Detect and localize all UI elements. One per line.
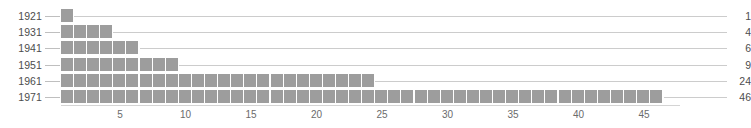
unit-square bbox=[572, 90, 584, 103]
unit-square bbox=[310, 90, 322, 103]
unit-square bbox=[100, 25, 112, 38]
unit-square bbox=[100, 90, 112, 103]
x-tick-label: 15 bbox=[245, 109, 256, 120]
unit-square bbox=[74, 58, 86, 71]
row-unit-squares bbox=[61, 58, 179, 72]
unit-square bbox=[388, 90, 400, 103]
unit-square bbox=[231, 74, 243, 87]
unit-square bbox=[153, 74, 165, 87]
unit-square bbox=[271, 74, 283, 87]
unit-square bbox=[349, 90, 361, 103]
row-value-label: 1 bbox=[730, 9, 751, 23]
unit-square bbox=[480, 90, 492, 103]
unit-square bbox=[284, 74, 296, 87]
unit-square bbox=[323, 90, 335, 103]
unit-square bbox=[244, 90, 256, 103]
row-value-label: 24 bbox=[730, 74, 751, 88]
unit-square bbox=[61, 74, 73, 87]
x-tick-label: 20 bbox=[311, 109, 322, 120]
unit-square bbox=[218, 90, 230, 103]
row-value-label: 9 bbox=[730, 58, 751, 72]
unit-square bbox=[362, 90, 374, 103]
unit-square bbox=[650, 90, 662, 103]
unit-square bbox=[61, 41, 73, 54]
x-axis-line bbox=[61, 105, 680, 106]
unit-square bbox=[166, 58, 178, 71]
unit-square bbox=[532, 90, 544, 103]
unit-square bbox=[349, 74, 361, 87]
unit-square bbox=[113, 90, 125, 103]
unit-square bbox=[179, 90, 191, 103]
unit-square bbox=[506, 90, 518, 103]
row-leader-line-right bbox=[74, 16, 727, 17]
row-unit-squares bbox=[61, 74, 375, 88]
unit-square bbox=[61, 90, 73, 103]
row-unit-squares bbox=[61, 41, 140, 55]
unit-square bbox=[244, 74, 256, 87]
row-year-label: 1921 bbox=[0, 9, 42, 23]
unit-square bbox=[87, 58, 99, 71]
chart-row: 19314 bbox=[0, 25, 751, 39]
unit-square bbox=[140, 90, 152, 103]
unit-square bbox=[126, 90, 138, 103]
row-value-label: 4 bbox=[730, 25, 751, 39]
unit-square bbox=[415, 90, 427, 103]
unit-square bbox=[74, 25, 86, 38]
unit-square bbox=[375, 90, 387, 103]
row-unit-squares bbox=[61, 90, 663, 104]
chart-row: 197146 bbox=[0, 90, 751, 104]
unit-square bbox=[362, 74, 374, 87]
row-year-label: 1961 bbox=[0, 74, 42, 88]
unit-square bbox=[74, 90, 86, 103]
row-value-label: 46 bbox=[730, 90, 751, 104]
row-value-label: 6 bbox=[730, 41, 751, 55]
unit-square bbox=[153, 58, 165, 71]
unit-square bbox=[153, 90, 165, 103]
unit-square bbox=[559, 90, 571, 103]
unit-square bbox=[231, 90, 243, 103]
unit-square-chart: 19211193141941619519196124197146 5101520… bbox=[0, 0, 751, 128]
row-leader-line-right bbox=[140, 48, 727, 49]
unit-square bbox=[257, 90, 269, 103]
unit-square bbox=[297, 90, 309, 103]
unit-square bbox=[218, 74, 230, 87]
unit-square bbox=[336, 74, 348, 87]
row-leader-line-left bbox=[45, 16, 60, 17]
chart-row: 19519 bbox=[0, 58, 751, 72]
row-leader-line-left bbox=[45, 97, 60, 98]
x-tick-label: 25 bbox=[376, 109, 387, 120]
unit-square bbox=[323, 74, 335, 87]
row-leader-line-right bbox=[375, 81, 727, 82]
unit-square bbox=[467, 90, 479, 103]
row-year-label: 1931 bbox=[0, 25, 42, 39]
row-leader-line-right bbox=[179, 65, 727, 66]
x-tick-label: 40 bbox=[573, 109, 584, 120]
unit-square bbox=[74, 41, 86, 54]
unit-square bbox=[113, 74, 125, 87]
x-tick-label: 35 bbox=[507, 109, 518, 120]
row-year-label: 1941 bbox=[0, 41, 42, 55]
unit-square bbox=[113, 58, 125, 71]
unit-square bbox=[428, 90, 440, 103]
row-leader-line-left bbox=[45, 48, 60, 49]
x-tick-label: 45 bbox=[638, 109, 649, 120]
x-tick-label: 10 bbox=[180, 109, 191, 120]
unit-square bbox=[637, 90, 649, 103]
row-unit-squares bbox=[61, 25, 113, 39]
row-leader-line-right bbox=[113, 32, 727, 33]
unit-square bbox=[192, 90, 204, 103]
unit-square bbox=[598, 90, 610, 103]
unit-square bbox=[61, 58, 73, 71]
unit-square bbox=[61, 9, 73, 22]
unit-square bbox=[257, 74, 269, 87]
unit-square bbox=[205, 74, 217, 87]
unit-square bbox=[87, 25, 99, 38]
unit-square bbox=[140, 58, 152, 71]
unit-square bbox=[74, 74, 86, 87]
unit-square bbox=[126, 74, 138, 87]
chart-row: 196124 bbox=[0, 74, 751, 88]
unit-square bbox=[271, 90, 283, 103]
row-leader-line-right bbox=[664, 97, 727, 98]
unit-square bbox=[624, 90, 636, 103]
row-year-label: 1971 bbox=[0, 90, 42, 104]
